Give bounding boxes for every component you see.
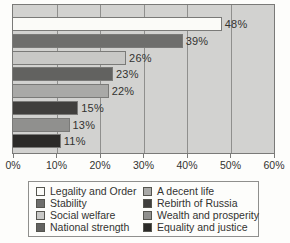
x-tick-label: 60% — [263, 159, 284, 171]
legend-swatch-icon — [36, 211, 45, 220]
legend-label: Rebirth of Russia — [157, 197, 238, 209]
legend-swatch-icon — [143, 187, 152, 196]
tick-mark — [187, 154, 188, 158]
tick-mark — [13, 154, 14, 158]
bar-stability: 39% — [13, 34, 183, 48]
x-tick-label: 20% — [89, 159, 110, 171]
tick-mark — [230, 154, 231, 158]
tick-mark — [143, 154, 144, 158]
tick-mark — [100, 154, 101, 158]
legend-item-social-welfare: Social welfare — [36, 209, 143, 221]
legend-swatch-icon — [36, 187, 45, 196]
legend-item-legality-and-order: Legality and Order — [36, 185, 143, 197]
legend-item-wealth-and-prosperity: Wealth and prosperity — [143, 209, 253, 221]
bar-value-label: 11% — [64, 135, 86, 147]
bar-value-label: 15% — [81, 102, 104, 114]
bar-equality-and-justice: 11% — [13, 134, 61, 148]
legend-label: Stability — [50, 197, 87, 209]
tick-mark — [274, 154, 275, 158]
legend-label: National strength — [50, 221, 129, 233]
legend: Legality and OrderStabilitySocial welfar… — [28, 181, 259, 237]
bar-a-decent-life: 22% — [13, 84, 109, 98]
legend-swatch-icon — [36, 199, 45, 208]
bar-value-label: 26% — [129, 52, 152, 64]
bar-value-label: 48% — [225, 18, 248, 30]
legend-item-national-strength: National strength — [36, 221, 143, 233]
legend-item-rebirth-of-russia: Rebirth of Russia — [143, 197, 253, 209]
x-tick-label: 10% — [46, 159, 67, 171]
bar-value-label: 39% — [186, 35, 209, 47]
x-tick-label: 30% — [133, 159, 154, 171]
legend-swatch-icon — [36, 223, 45, 232]
bar-chart-figure: 48%39%26%23%22%15%13%11% 0%10%20%30%40%5… — [0, 0, 290, 243]
bar-social-welfare: 26% — [13, 51, 126, 65]
bar-value-label: 13% — [73, 119, 96, 131]
bar-rebirth-of-russia: 15% — [13, 101, 78, 115]
legend-item-a-decent-life: A decent life — [143, 185, 253, 197]
tick-mark — [56, 154, 57, 158]
legend-item-equality-and-justice: Equality and justice — [143, 221, 253, 233]
plot-area: 48%39%26%23%22%15%13%11% — [12, 4, 275, 154]
x-tick-label: 50% — [220, 159, 241, 171]
x-axis: 0%10%20%30%40%50%60% — [13, 154, 274, 176]
legend-label: Legality and Order — [50, 185, 136, 197]
legend-item-stability: Stability — [36, 197, 143, 209]
bar-wealth-and-prosperity: 13% — [13, 118, 70, 132]
x-tick-label: 40% — [176, 159, 197, 171]
legend-swatch-icon — [143, 223, 152, 232]
bar-national-strength: 23% — [13, 67, 113, 81]
legend-label: Equality and justice — [157, 221, 247, 233]
bar-legality-and-order: 48% — [13, 17, 222, 31]
bar-value-label: 22% — [112, 85, 135, 97]
x-tick-label: 0% — [5, 159, 20, 171]
legend-swatch-icon — [143, 199, 152, 208]
bar-value-label: 23% — [116, 68, 139, 80]
legend-label: Social welfare — [50, 209, 115, 221]
legend-swatch-icon — [143, 211, 152, 220]
legend-label: A decent life — [157, 185, 214, 197]
legend-label: Wealth and prosperity — [157, 209, 259, 221]
